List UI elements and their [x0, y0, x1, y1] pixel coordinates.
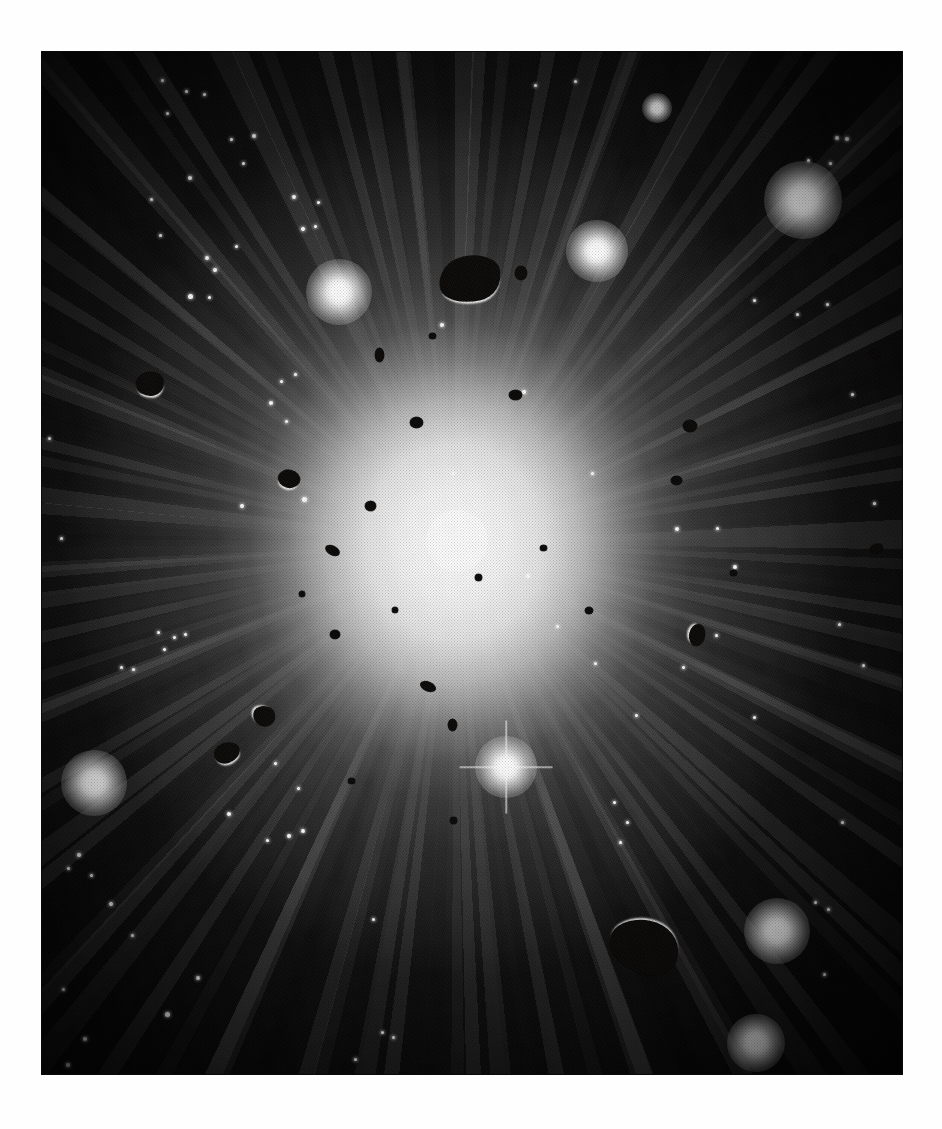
star-point — [753, 716, 756, 719]
star-point — [675, 527, 679, 531]
central-light-source — [426, 510, 488, 572]
star-point — [829, 162, 832, 165]
star-point — [574, 80, 577, 83]
star-point — [381, 1031, 384, 1034]
star-glow-lower-right — [744, 898, 810, 964]
star-point — [317, 201, 320, 204]
star-glow-upper-left — [306, 259, 372, 325]
rock-lower-right-dot — [730, 570, 737, 576]
star-point — [392, 1036, 395, 1039]
star-point — [835, 136, 839, 140]
star-point — [196, 976, 200, 980]
star-point — [188, 176, 192, 180]
star-point — [242, 162, 245, 165]
star-point — [131, 934, 134, 937]
rock-center-small-a — [365, 501, 376, 511]
star-glow-lower-left — [61, 750, 127, 816]
star-point — [132, 668, 135, 671]
star-point — [796, 313, 799, 316]
star-point — [635, 714, 638, 717]
star-point — [166, 112, 169, 115]
rock-center-dot-a — [475, 574, 482, 581]
star-point — [208, 296, 211, 299]
star-point — [613, 801, 616, 804]
rock-center-small-f — [509, 390, 522, 400]
rock-center-small-c — [330, 630, 340, 639]
rock-upper-right-edge — [829, 255, 838, 264]
star-glow-top-small — [642, 93, 672, 123]
star-point — [591, 472, 594, 475]
star-point — [66, 1063, 70, 1067]
star-point — [302, 497, 307, 502]
star-glow-upper-right-large — [764, 161, 842, 239]
page-canvas — [0, 0, 942, 1129]
star-point — [235, 245, 238, 248]
star-point — [826, 303, 829, 306]
rock-upper-mid-dot — [429, 333, 436, 339]
rock-center-dot-d — [299, 591, 305, 597]
star-point — [240, 504, 244, 508]
star-point — [269, 401, 273, 405]
astronomical-plate-image — [42, 52, 902, 1074]
star-point — [682, 666, 685, 669]
star-point — [814, 901, 817, 904]
star-point — [213, 268, 217, 272]
rock-center-dot-b — [540, 545, 547, 551]
rock-right-upper — [671, 476, 682, 485]
star-point — [838, 623, 841, 626]
star-point — [845, 137, 849, 141]
star-point — [372, 918, 375, 921]
star-point — [150, 198, 153, 201]
rock-center-dot-g — [450, 817, 457, 824]
star-point — [287, 834, 291, 838]
rock-center-small-g — [515, 266, 527, 280]
star-glow-bottom-right — [727, 1014, 785, 1072]
star-point — [62, 988, 65, 991]
star-point — [280, 380, 283, 383]
rock-center-upper — [410, 417, 423, 428]
star-glow-upper-mid-right — [566, 220, 628, 282]
star-point — [522, 390, 526, 394]
star-point — [715, 634, 718, 637]
star-point — [440, 323, 444, 327]
rock-center-dot-e — [585, 607, 593, 614]
star-point — [619, 841, 622, 844]
rock-center-small-e — [448, 719, 457, 731]
rock-center-dot-c — [392, 607, 398, 613]
rock-center-small-h — [375, 348, 384, 362]
rock-center-dot-f — [348, 778, 355, 784]
star-point — [161, 79, 164, 82]
rock-right-mid — [683, 420, 697, 432]
star-point — [862, 664, 865, 667]
star-point — [556, 625, 559, 628]
